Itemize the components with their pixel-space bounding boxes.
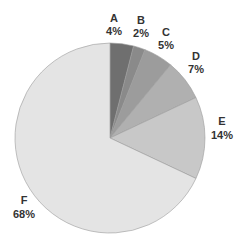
label-a-pct: 4%	[106, 25, 122, 37]
label-c-pct: 5%	[158, 39, 174, 51]
label-f-pct: 68%	[13, 208, 35, 220]
label-b-name: B	[137, 14, 145, 26]
label-d-pct: 7%	[188, 63, 204, 75]
label-d-name: D	[192, 50, 200, 62]
pie-slices	[15, 43, 205, 233]
label-a-name: A	[110, 12, 118, 24]
label-f-name: F	[21, 194, 28, 206]
pie-chart: A 4% B 2% C 5% D 7% E 14% F 68%	[0, 0, 242, 238]
label-e-pct: 14%	[211, 129, 233, 141]
label-c-name: C	[162, 26, 170, 38]
label-e-name: E	[218, 115, 225, 127]
label-b-pct: 2%	[133, 27, 149, 39]
